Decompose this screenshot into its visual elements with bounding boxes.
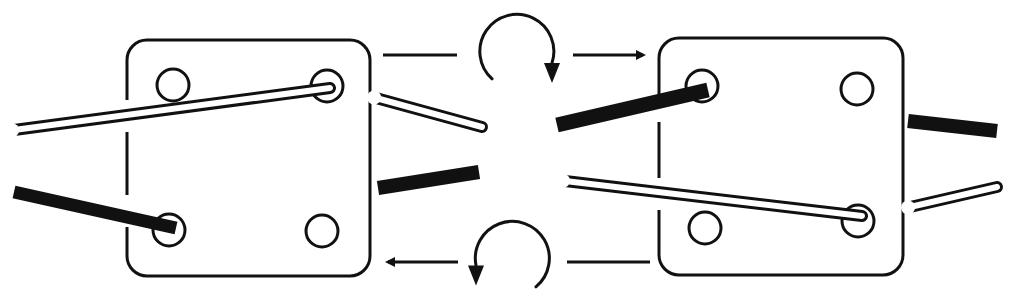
hole-icon [306,215,338,247]
right-card [656,38,903,275]
cord-fill [376,98,482,127]
black-cord-far-right [908,121,997,131]
black-cord-middle [378,172,479,188]
bottom-rotate-arc-icon [475,221,549,286]
cord-fill [910,187,997,207]
white-cord-middle [367,90,482,127]
hole-icon [157,69,189,101]
arrowhead-down-icon [468,265,484,285]
left-card [124,40,370,276]
top-rotate-arc-icon [480,14,554,78]
cord-cut [5,123,19,137]
arrows-layer [383,14,650,286]
cord-cut [901,200,915,214]
cord-cut [556,174,570,188]
card-weaving-diagram [0,0,1009,299]
arrowhead-down-icon [544,63,560,83]
cord-cut [367,90,381,104]
hole-icon [841,73,873,105]
hole-icon [689,212,721,244]
cards-layer [124,38,903,276]
diagram-canvas [0,0,1009,299]
white-cord-far-right [901,187,997,214]
